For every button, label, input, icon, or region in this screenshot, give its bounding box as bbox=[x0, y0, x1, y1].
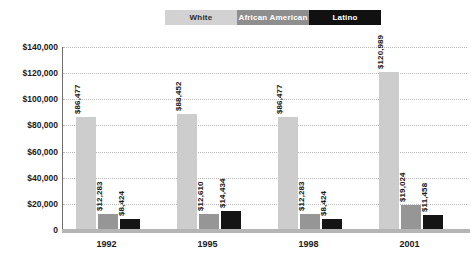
bar-african-american: $12,610 bbox=[199, 214, 219, 230]
plot-area: $86,477$12,283$8,424$88,452$12,610$14,43… bbox=[62, 47, 467, 230]
legend-label-african-american: African American bbox=[238, 13, 307, 22]
axis-baseline bbox=[62, 229, 470, 233]
legend-label-latino: Latino bbox=[332, 13, 357, 22]
bar-value-label: $14,434 bbox=[218, 179, 227, 209]
bar-value-label: $12,283 bbox=[95, 181, 104, 211]
legend-item-white: White bbox=[165, 10, 237, 25]
bar-value-label: $88,452 bbox=[174, 82, 183, 112]
bar-group: $86,477$12,283$8,424 bbox=[76, 47, 140, 230]
bar-value-label: $120,989 bbox=[376, 35, 385, 69]
bar-group: $120,989$19,024$11,458 bbox=[379, 47, 443, 230]
y-axis-tick-label: 0 bbox=[0, 225, 58, 235]
bar-african-american: $19,024 bbox=[401, 205, 421, 230]
bar-white: $86,477 bbox=[278, 117, 298, 230]
bar-latino: $11,458 bbox=[423, 215, 443, 230]
bar-value-label: $8,424 bbox=[117, 191, 126, 216]
bar-african-american: $12,283 bbox=[98, 214, 118, 230]
x-axis-tick-label: 1992 bbox=[96, 239, 116, 249]
bar-african-american: $12,283 bbox=[300, 214, 320, 230]
bar-white: $86,477 bbox=[76, 117, 96, 230]
bar-chart: White African American Latino 0$20,000$4… bbox=[0, 0, 475, 267]
x-axis-tick-label: 1998 bbox=[298, 239, 318, 249]
x-axis-tick-label: 2001 bbox=[399, 239, 419, 249]
bar-value-label: $11,458 bbox=[420, 183, 429, 212]
bar-group: $88,452$12,610$14,434 bbox=[177, 47, 241, 230]
y-axis-tick-label: $60,000 bbox=[0, 147, 58, 157]
y-axis-tick-label: $120,000 bbox=[0, 68, 58, 78]
y-axis-tick-label: $140,000 bbox=[0, 42, 58, 52]
bar-white: $88,452 bbox=[177, 114, 197, 230]
bar-value-label: $12,283 bbox=[297, 181, 306, 211]
legend-item-african-american: African American bbox=[237, 10, 309, 25]
chart-legend: White African American Latino bbox=[165, 10, 381, 25]
bar-value-label: $8,424 bbox=[319, 191, 328, 216]
x-axis-tick-label: 1995 bbox=[197, 239, 217, 249]
y-axis-tick-label: $80,000 bbox=[0, 120, 58, 130]
bar-value-label: $86,477 bbox=[73, 84, 82, 114]
bar-value-label: $12,610 bbox=[196, 181, 205, 211]
bar-latino: $14,434 bbox=[221, 211, 241, 230]
bar-white: $120,989 bbox=[379, 72, 399, 230]
bar-value-label: $86,477 bbox=[275, 84, 284, 114]
y-axis-tick-label: $100,000 bbox=[0, 94, 58, 104]
y-axis-tick-label: $40,000 bbox=[0, 173, 58, 183]
y-axis-tick-label: $20,000 bbox=[0, 199, 58, 209]
bar-value-label: $19,024 bbox=[398, 173, 407, 203]
legend-label-white: White bbox=[190, 13, 213, 22]
legend-item-latino: Latino bbox=[309, 10, 381, 25]
bar-group: $86,477$12,283$8,424 bbox=[278, 47, 342, 230]
y-axis: 0$20,000$40,000$60,000$80,000$100,000$12… bbox=[0, 47, 58, 230]
